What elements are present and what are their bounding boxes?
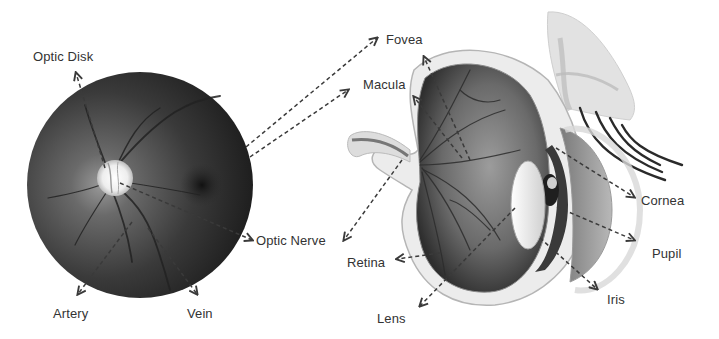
label-fovea: Fovea: [386, 33, 423, 47]
eye-anatomy-diagram: Optic Disk Artery Vein Optic Nerve Fovea…: [0, 0, 719, 339]
label-cornea: Cornea: [641, 194, 684, 208]
label-lens: Lens: [377, 312, 406, 326]
fundus-image: [27, 72, 253, 298]
label-retina: Retina: [347, 256, 385, 270]
arrow-macula-link: [250, 90, 348, 157]
arrow-optic-nerve-eye: [344, 160, 402, 240]
diagram-canvas: [0, 0, 719, 339]
label-vein: Vein: [187, 307, 213, 321]
label-optic-disk: Optic Disk: [33, 50, 93, 64]
eye-cross-section: [348, 12, 682, 305]
label-macula: Macula: [363, 78, 406, 92]
label-artery: Artery: [53, 307, 88, 321]
label-iris: Iris: [607, 293, 625, 307]
arrow-fovea-link: [246, 38, 377, 147]
label-optic-nerve: Optic Nerve: [256, 234, 326, 248]
label-pupil: Pupil: [652, 247, 681, 261]
